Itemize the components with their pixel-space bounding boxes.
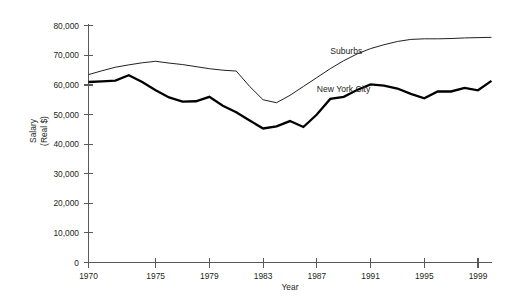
x-axis-title: Year	[282, 282, 299, 292]
x-tick-label: 1991	[361, 271, 380, 281]
y-tick-label: 30,000	[53, 169, 79, 179]
x-tick-label: 1970	[79, 271, 98, 281]
x-tick-label: 1975	[146, 271, 165, 281]
x-axis-tick-labels: 19701975197919831987199119951999	[79, 271, 487, 281]
series-line-suburbs	[89, 37, 492, 102]
x-tick-label: 1999	[469, 271, 488, 281]
y-axis-title-line1: Salary	[28, 118, 38, 143]
x-tick-label: 1979	[200, 271, 219, 281]
series-line-new-york-city	[89, 75, 492, 128]
y-tick-label: 0	[74, 258, 79, 268]
y-tick-label: 50,000	[53, 110, 79, 120]
y-axis: 010,00020,00030,00040,00050,00060,00070,…	[28, 21, 93, 268]
y-tick-label: 40,000	[53, 139, 79, 149]
series-label-suburbs: Suburbs	[330, 46, 362, 56]
x-tick-label: 1987	[308, 271, 327, 281]
chart-container: 010,00020,00030,00040,00050,00060,00070,…	[0, 0, 521, 300]
y-tick-label: 80,000	[53, 21, 79, 31]
series-annotations: SuburbsNew York City	[317, 46, 371, 94]
y-axis-title-line2: (Real $)	[39, 116, 49, 146]
y-tick-label: 60,000	[53, 80, 79, 90]
y-tick-label: 70,000	[53, 50, 79, 60]
data-series-group	[89, 37, 492, 128]
x-tick-label: 1983	[254, 271, 273, 281]
y-tick-label: 10,000	[53, 228, 79, 238]
x-tick-label: 1995	[415, 271, 434, 281]
y-axis-tick-labels: 010,00020,00030,00040,00050,00060,00070,…	[53, 21, 79, 268]
line-chart: 010,00020,00030,00040,00050,00060,00070,…	[0, 0, 521, 300]
y-tick-label: 20,000	[53, 198, 79, 208]
x-axis: 19701975197919831987199119951999 Year	[79, 258, 492, 292]
series-label-new-york-city: New York City	[317, 84, 371, 94]
